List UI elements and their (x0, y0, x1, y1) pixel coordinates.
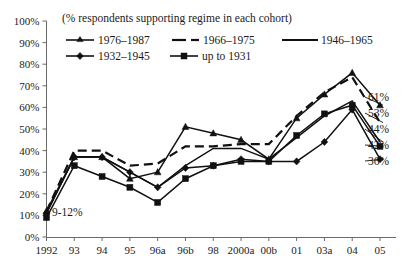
series-path (47, 73, 381, 211)
legend-label-1976-1987: 1976–1987 (98, 34, 150, 46)
chart-caption: (% respondents supporting regime in each… (62, 12, 292, 25)
legend-label-1966-1975: 1966–1975 (203, 34, 255, 46)
end-label-1946-1965: 44% (368, 123, 390, 135)
x-axis: 199293949596a96b982000a00b0103a0405 (36, 237, 397, 256)
square-marker-icon (71, 163, 77, 169)
x-tick-label: 1992 (36, 244, 58, 256)
legend-item-1946-1965: 1946–1965 (282, 34, 373, 46)
series-up-to-1931 (44, 102, 384, 220)
y-tick-label: 50% (19, 123, 39, 135)
x-tick-label: 03a (316, 244, 332, 256)
diamond-marker-icon (77, 52, 84, 59)
end-label-up-to-1931: 42% (368, 139, 390, 151)
y-tick-label: 70% (19, 80, 39, 92)
diamond-marker-icon (126, 169, 133, 176)
x-tick-label: 2000a (228, 244, 255, 256)
y-tick-label: 10% (19, 209, 39, 221)
legend-item-up-to-1931: up to 1931 (170, 50, 251, 63)
x-tick-label: 01 (291, 244, 302, 256)
legend-label-up-to-1931: up to 1931 (202, 50, 251, 63)
y-axis-ticks: 100%90%80%70%60%50%40%30%20%10%0% (14, 15, 47, 243)
end-value-labels: 61%53%44%42%36% (365, 91, 390, 167)
legend-label-1932-1945: 1932–1945 (98, 50, 150, 62)
y-tick-label: 30% (19, 166, 39, 178)
y-tick-label: 100% (14, 15, 40, 27)
triangle-marker-icon (182, 123, 189, 129)
series-layer (43, 69, 383, 220)
y-tick-label: 80% (19, 58, 39, 70)
x-tick-label: 98 (208, 244, 220, 256)
x-tick-label: 96a (150, 244, 166, 256)
y-tick-label: 0% (25, 231, 40, 243)
legend-item-1966-1975: 1966–1975 (172, 34, 255, 46)
triangle-marker-icon (349, 69, 356, 75)
square-marker-icon (127, 184, 133, 190)
y-tick-label: 90% (19, 37, 39, 49)
end-label-1976-1987: 61% (368, 91, 390, 103)
annotation-label: 9-12% (52, 206, 83, 218)
triangle-marker-icon (77, 36, 83, 41)
legend-item-1932-1945: 1932–1945 (66, 50, 150, 62)
x-tick-label: 04 (347, 244, 359, 256)
square-marker-icon (99, 174, 105, 180)
end-label-1932-1945: 36% (368, 155, 390, 167)
series-1966-1975 (47, 77, 381, 211)
x-tick-label: 96b (177, 244, 194, 256)
line-chart: (% respondents supporting regime in each… (0, 0, 403, 263)
chart-figure: (% respondents supporting regime in each… (0, 0, 403, 263)
x-tick-label: 93 (69, 244, 81, 256)
y-tick-label: 20% (19, 188, 39, 200)
y-tick-label: 60% (19, 101, 39, 113)
series-1932-1945 (43, 106, 383, 217)
x-tick-label: 00b (261, 244, 278, 256)
legend-item-1976-1987: 1976–1987 (66, 34, 150, 46)
square-marker-icon (181, 53, 187, 59)
legend-label-1946-1965: 1946–1965 (321, 34, 373, 46)
square-marker-icon (155, 199, 161, 205)
series-path (47, 105, 381, 217)
series-path (47, 77, 381, 211)
y-axis: 100%90%80%70%60%50%40%30%20%10%0% (14, 15, 47, 243)
square-marker-icon (182, 176, 188, 182)
legend: 1976–1987 1966–1975 1946–1965 (66, 34, 373, 46)
y-tick-label: 40% (19, 145, 39, 157)
square-marker-icon (294, 132, 300, 138)
x-tick-label: 95 (124, 244, 136, 256)
series-path (47, 110, 381, 214)
legend-row-2: 1932–1945 up to 1931 (66, 50, 251, 63)
end-label-1966-1975: 53% (368, 107, 390, 119)
x-tick-label: 05 (375, 244, 387, 256)
x-tick-label: 94 (97, 244, 109, 256)
annotation-9-12: 9-12% (52, 206, 83, 218)
x-axis-ticks: 199293949596a96b982000a00b0103a0405 (36, 237, 387, 256)
series-1976-1987 (43, 69, 383, 213)
square-marker-icon (321, 111, 327, 117)
